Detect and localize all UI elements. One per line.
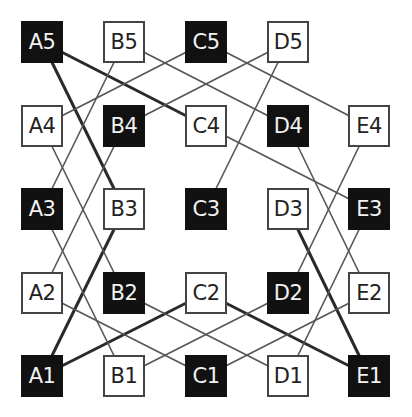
node-B1: B1: [103, 355, 145, 397]
node-label: A1: [29, 364, 56, 388]
node-label: B2: [111, 281, 138, 305]
node-E1: E1: [348, 355, 390, 397]
grid-graph-diagram: A5B5C5D5A4B4C4D4E4A3B3C3D3E3A2B2C2D2E2A1…: [0, 0, 412, 417]
node-E2: E2: [348, 272, 390, 314]
node-label: D5: [274, 30, 303, 54]
node-A4: A4: [21, 105, 63, 147]
node-A1: A1: [21, 355, 63, 397]
node-label: A2: [29, 281, 56, 305]
node-A5: A5: [21, 21, 63, 63]
node-D2: D2: [267, 272, 309, 314]
node-C3: C3: [185, 188, 227, 230]
node-C4: C4: [185, 105, 227, 147]
node-E3: E3: [348, 188, 390, 230]
node-B3: B3: [103, 188, 145, 230]
node-C1: C1: [185, 355, 227, 397]
node-label: A3: [29, 197, 56, 221]
node-C5: C5: [185, 21, 227, 63]
node-label: D3: [274, 197, 303, 221]
node-B2: B2: [103, 272, 145, 314]
node-label: C1: [192, 364, 219, 388]
node-label: B1: [111, 364, 138, 388]
node-label: E3: [356, 197, 382, 221]
node-label: A4: [29, 114, 56, 138]
node-A3: A3: [21, 188, 63, 230]
node-label: B4: [111, 114, 138, 138]
node-label: D1: [274, 364, 303, 388]
node-B5: B5: [103, 21, 145, 63]
node-label: D4: [274, 114, 303, 138]
node-label: B5: [111, 30, 138, 54]
node-label: C4: [192, 114, 219, 138]
node-label: B3: [111, 197, 138, 221]
node-D4: D4: [267, 105, 309, 147]
node-C2: C2: [185, 272, 227, 314]
node-label: E2: [356, 281, 382, 305]
node-label: E4: [356, 114, 382, 138]
node-label: C5: [192, 30, 219, 54]
node-D1: D1: [267, 355, 309, 397]
node-D5: D5: [267, 21, 309, 63]
node-E4: E4: [348, 105, 390, 147]
node-label: D2: [274, 281, 303, 305]
node-label: A5: [29, 30, 56, 54]
node-label: C2: [192, 281, 219, 305]
node-label: E1: [356, 364, 382, 388]
node-A2: A2: [21, 272, 63, 314]
node-label: C3: [192, 197, 219, 221]
node-B4: B4: [103, 105, 145, 147]
node-D3: D3: [267, 188, 309, 230]
